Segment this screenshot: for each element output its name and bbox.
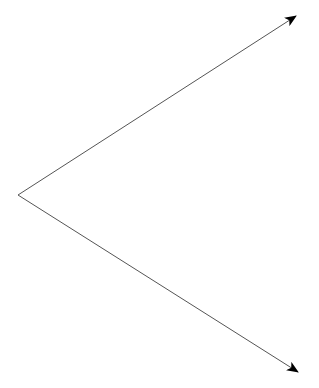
upper-ray-arrow bbox=[18, 16, 296, 195]
lower-ray-arrow bbox=[18, 195, 298, 372]
angle-diagram bbox=[0, 0, 319, 388]
